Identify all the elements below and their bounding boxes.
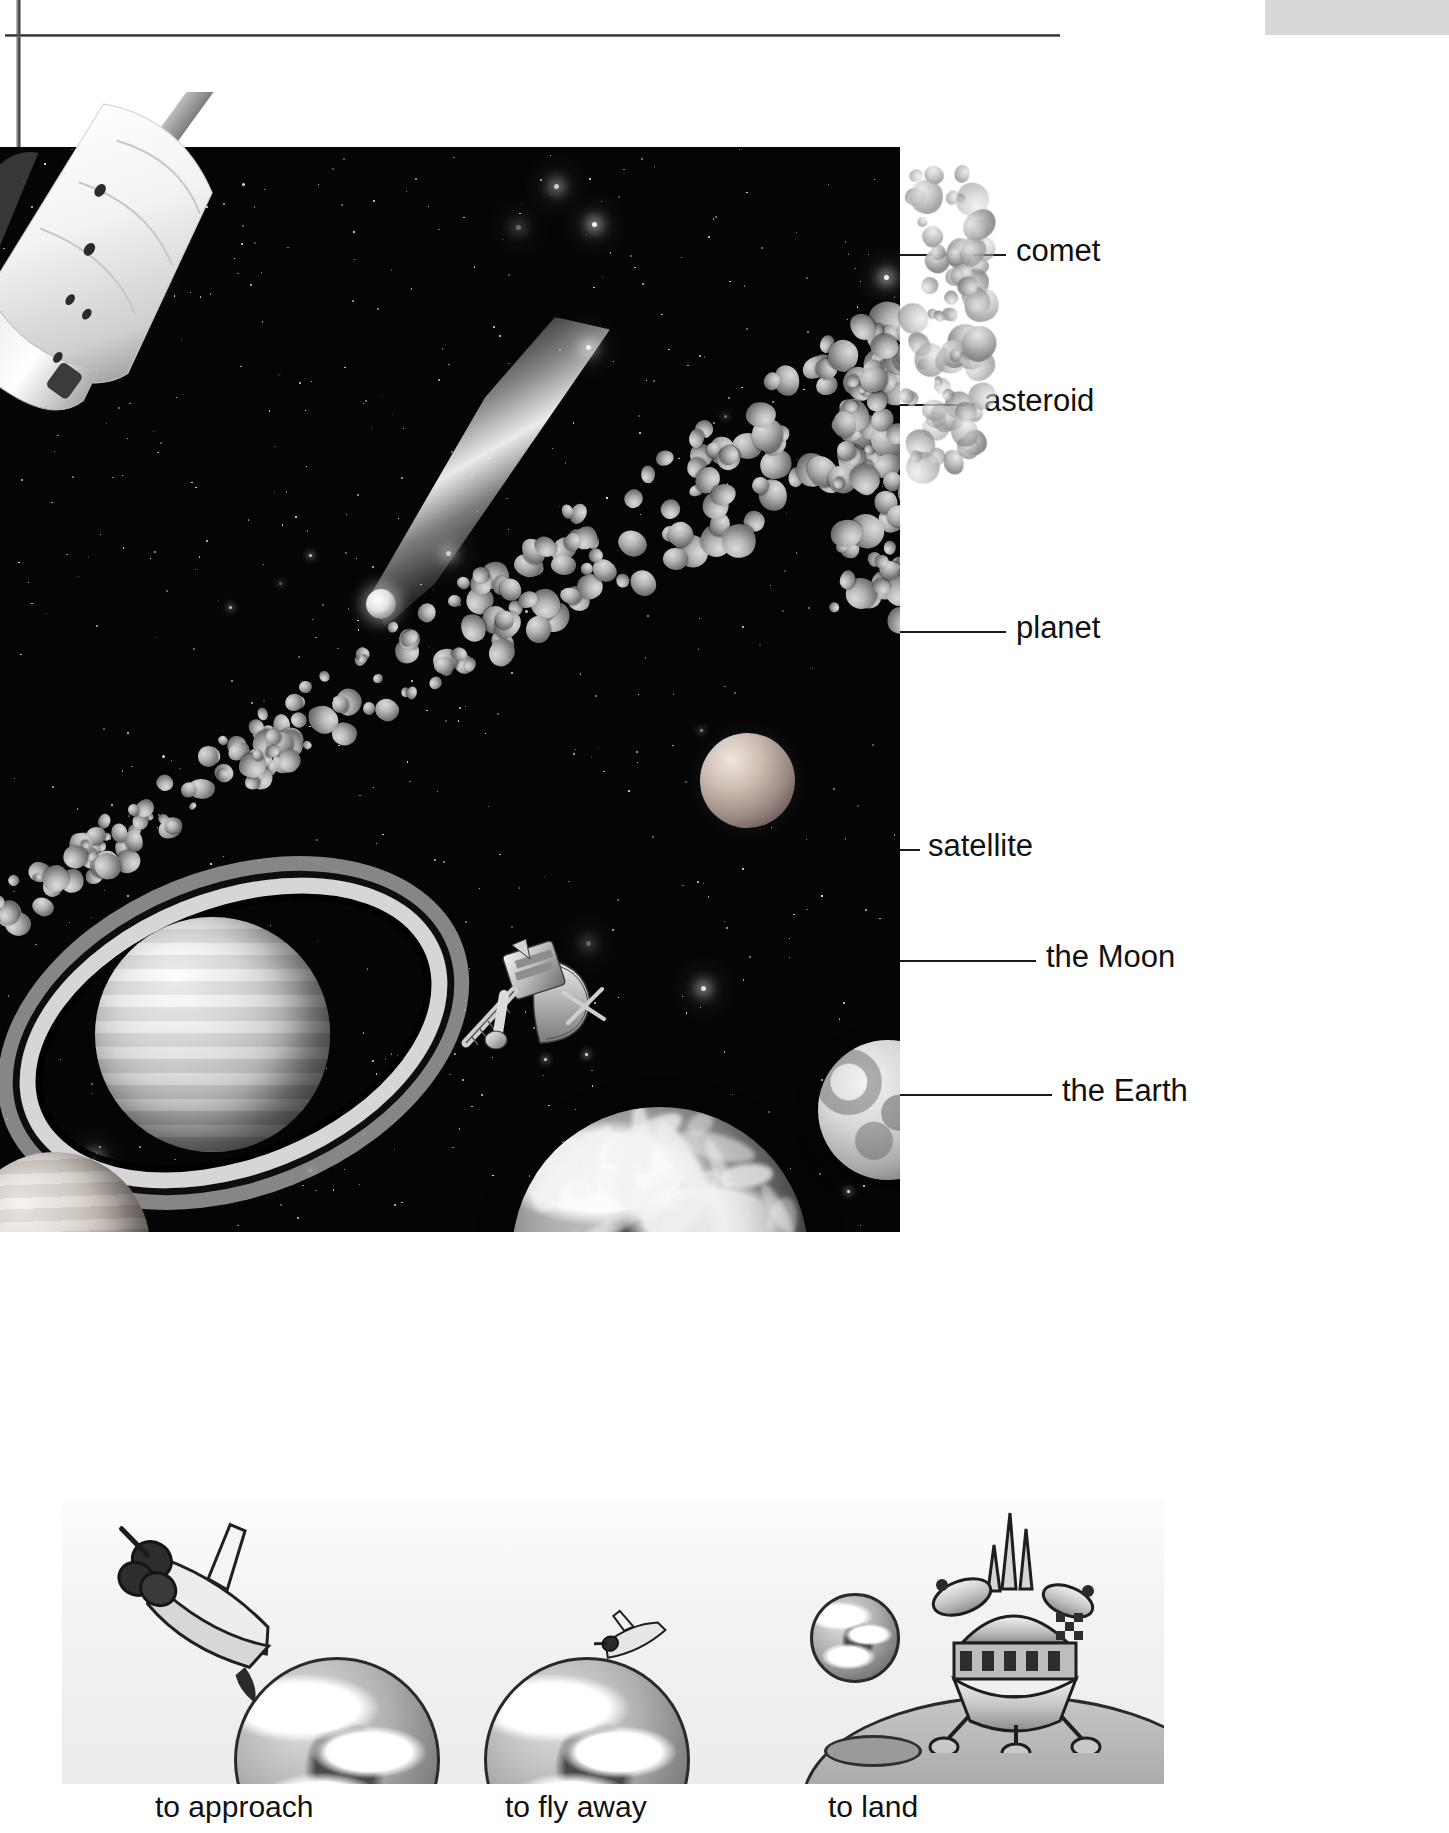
star-icon <box>789 938 790 939</box>
star-icon <box>411 288 412 289</box>
star-icon <box>459 707 461 709</box>
diagram-label-asteroid: asteroid <box>984 385 1094 416</box>
star-icon <box>847 1190 850 1193</box>
star-icon <box>365 400 366 401</box>
star-icon <box>354 259 355 260</box>
star-icon <box>13 891 14 892</box>
star-icon <box>708 467 709 468</box>
star-icon <box>481 1094 483 1096</box>
star-icon <box>353 231 354 232</box>
star-icon <box>442 348 443 349</box>
star-icon <box>580 673 581 674</box>
star-icon <box>770 585 771 586</box>
star-icon <box>210 863 212 865</box>
mini-earth-icon <box>810 1593 900 1683</box>
star-icon <box>262 321 263 322</box>
star-icon <box>603 771 604 772</box>
star-icon <box>103 728 104 729</box>
star-icon <box>307 530 308 531</box>
satellite-illustration <box>452 937 612 1072</box>
star-icon <box>199 556 200 557</box>
star-icon <box>874 179 875 180</box>
star-icon <box>279 582 282 585</box>
asteroid-icon <box>921 275 940 294</box>
star-icon <box>348 608 349 609</box>
star-icon <box>18 562 19 563</box>
mini-earth-icon <box>484 1657 690 1784</box>
star-icon <box>638 415 640 417</box>
star-icon <box>578 541 579 542</box>
star-icon <box>322 604 324 606</box>
star-icon <box>653 380 654 381</box>
star-icon <box>715 216 717 218</box>
star-icon <box>739 149 740 150</box>
star-icon <box>66 554 67 555</box>
shuttle-flying-away-icon <box>594 1603 674 1663</box>
star-icon <box>452 1147 453 1148</box>
star-icon <box>179 768 180 769</box>
star-icon <box>434 859 436 861</box>
star-icon <box>363 1133 365 1135</box>
star-icon <box>654 166 655 167</box>
star-icon <box>592 1085 593 1086</box>
star-icon <box>652 836 653 837</box>
star-icon <box>488 806 489 807</box>
star-icon <box>592 222 597 227</box>
asteroid-icon <box>941 388 954 402</box>
star-icon <box>724 415 727 418</box>
star-icon <box>668 349 669 350</box>
star-icon <box>356 558 357 559</box>
star-icon <box>508 363 509 364</box>
star-icon <box>845 241 846 242</box>
star-icon <box>746 192 747 193</box>
star-icon <box>589 178 590 179</box>
star-icon <box>357 494 358 495</box>
star-icon <box>157 452 158 453</box>
star-icon <box>237 1225 238 1226</box>
star-icon <box>796 232 797 233</box>
star-icon <box>548 1105 549 1106</box>
leader-line-the-moon <box>900 960 1036 962</box>
star-icon <box>21 479 23 481</box>
star-icon <box>786 513 787 514</box>
star-icon <box>429 647 430 648</box>
star-icon <box>329 730 331 732</box>
ringed-planet-illustration <box>95 917 330 1152</box>
star-icon <box>628 579 629 580</box>
star-icon <box>206 540 208 542</box>
star-icon <box>636 751 638 753</box>
star-icon <box>463 217 464 218</box>
star-icon <box>223 856 224 857</box>
verb-cell-to-fly-away <box>422 1499 762 1784</box>
star-icon <box>819 1173 821 1175</box>
star-icon <box>344 1169 345 1170</box>
star-icon <box>639 432 640 433</box>
star-icon <box>345 552 347 554</box>
star-icon <box>673 693 674 694</box>
star-icon <box>488 457 489 458</box>
star-icon <box>280 1204 282 1206</box>
star-icon <box>280 741 281 742</box>
star-icon <box>687 365 688 366</box>
star-icon <box>269 410 270 411</box>
star-icon <box>647 615 648 616</box>
star-icon <box>338 745 339 746</box>
star-icon <box>790 1168 791 1169</box>
star-icon <box>700 1007 701 1008</box>
star-icon <box>508 274 510 276</box>
star-icon <box>630 255 632 257</box>
lunar-lander-icon <box>898 1503 1128 1753</box>
verb-cell-to-land <box>762 1499 1164 1784</box>
star-icon <box>437 791 438 792</box>
star-icon <box>879 918 880 919</box>
star-icon <box>661 314 662 315</box>
star-icon <box>229 606 232 609</box>
star-icon <box>165 1197 166 1198</box>
star-icon <box>586 345 591 350</box>
star-icon <box>848 253 849 254</box>
star-icon <box>438 379 440 381</box>
star-icon <box>789 957 790 958</box>
star-icon <box>632 575 633 576</box>
star-icon <box>445 720 447 722</box>
star-icon <box>492 652 493 653</box>
